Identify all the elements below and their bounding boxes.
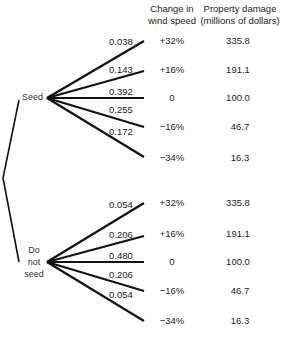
noseed-prob-3: 0.480 <box>109 250 133 261</box>
noseed-change-4: −16% <box>152 285 192 296</box>
seed-damage-2: 191.1 <box>213 64 263 75</box>
seed-prob-5: 0.172 <box>109 126 133 137</box>
noseed-damage-1: 335.8 <box>213 197 263 208</box>
noseed-prob-4: 0.206 <box>109 269 133 280</box>
noseed-damage-3: 100.0 <box>213 256 263 267</box>
change-header-line2: wind speed <box>142 15 202 27</box>
seed-prob-3: 0.392 <box>109 86 133 97</box>
damage-header-line1: Property damage <box>198 3 281 15</box>
damage-header: Property damage (millions of dollars) <box>198 3 281 26</box>
noseed-prob-5: 0.054 <box>109 289 133 300</box>
seed-change-3: 0 <box>152 92 192 103</box>
seed-change-2: +16% <box>152 64 192 75</box>
seed-change-4: −16% <box>152 121 192 132</box>
noseed-damage-4: 46.7 <box>215 285 265 296</box>
noseed-damage-5: 16.3 <box>215 315 265 326</box>
change-header-line1: Change in <box>142 3 202 15</box>
noseed-change-1: +32% <box>152 197 192 208</box>
seed-prob-2: 0.143 <box>109 64 133 75</box>
seed-damage-3: 100.0 <box>213 92 263 103</box>
noseed-change-2: +16% <box>152 228 192 239</box>
seed-damage-1: 335.8 <box>213 35 263 46</box>
do-not-seed-node-label: Do not seed <box>24 244 44 280</box>
do-not-seed-branches <box>47 203 144 321</box>
noseed-damage-2: 191.1 <box>213 228 263 239</box>
noseed-change-3: 0 <box>152 256 192 267</box>
seed-change-1: +32% <box>152 35 192 46</box>
noseed-prob-1: 0.054 <box>109 199 133 210</box>
seed-damage-5: 16.3 <box>215 152 265 163</box>
damage-header-line2: (millions of dollars) <box>198 15 281 27</box>
seed-prob-4: 0.255 <box>109 104 133 115</box>
seed-node-label: Seed <box>22 92 43 103</box>
root-branches <box>3 100 19 262</box>
noseed-prob-2: 0.206 <box>109 229 133 240</box>
seed-change-5: −34% <box>152 152 192 163</box>
noseed-change-5: −34% <box>152 315 192 326</box>
change-header: Change in wind speed <box>142 3 202 26</box>
seed-prob-1: 0.038 <box>109 36 133 47</box>
seed-branches <box>47 41 144 157</box>
seed-damage-4: 46.7 <box>215 121 265 132</box>
